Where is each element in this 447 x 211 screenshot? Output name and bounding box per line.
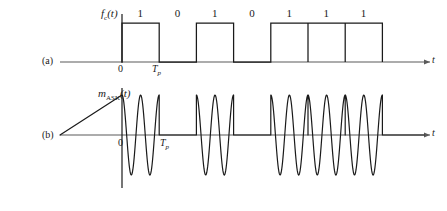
bit-label: 0: [249, 8, 255, 19]
bit-label: 1: [361, 8, 367, 19]
panel-b-origin-label: 0: [118, 138, 123, 148]
panel-b-axis-arrow: [424, 132, 430, 137]
panel-b-signal-sub: ASK: [106, 94, 120, 102]
panel-a-origin-label: 0: [118, 64, 123, 74]
panel-a-axis-label: t: [432, 55, 435, 65]
panel-b-label: (b): [42, 130, 54, 140]
panel-a-label: (a): [42, 56, 53, 66]
panel-b-graphics: [60, 88, 430, 188]
bit-label: 1: [212, 8, 218, 19]
panel-a-period-label: Tp: [152, 64, 161, 77]
panel-a-signal-suffix: (t): [107, 7, 117, 19]
panel-b-period-sub: p: [166, 143, 170, 151]
panel-b-signal-suffix: (t): [120, 87, 130, 99]
bit-label: 0: [175, 8, 181, 19]
bit-label: 1: [138, 8, 144, 19]
panel-a-pulse-train: [122, 23, 382, 62]
panel-b-axis-label: t: [432, 128, 435, 138]
panel-a-period-sub: p: [158, 69, 162, 77]
panel-b-signal-base: m: [98, 87, 106, 99]
panel-a-axis-arrow: [424, 59, 430, 64]
bit-label: 1: [286, 8, 292, 19]
panel-a-signal-label: fc(t): [101, 8, 118, 22]
panel-b-period-label: Tp: [160, 138, 169, 151]
ask-modulation-figure: (a) fc(t) 0 Tp t (b) mASK(t) 0 Tp t 1010…: [0, 0, 447, 211]
waveform-svg: [0, 0, 447, 211]
bit-label: 1: [324, 8, 330, 19]
panel-b-signal-label: mASK(t): [98, 88, 130, 102]
